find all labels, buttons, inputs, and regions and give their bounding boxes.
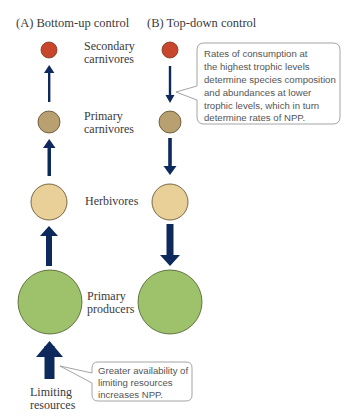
column-top-down [138,42,202,334]
callout-bottom-up: Greater availability of limiting resourc… [60,362,192,401]
panel-b-title: (B) Top-down control [147,16,257,30]
callout-bottom-line-3: increases NPP. [98,389,163,400]
column-bottom-up [18,42,82,379]
callout-top-line-5: trophic levels, which in turn [204,100,319,111]
label-herbivores: Herbivores [85,194,139,208]
node-primary-producers-b [138,270,202,334]
node-primary-carnivores-a [38,111,60,133]
panel-a-title: (A) Bottom-up control [16,16,130,30]
callout-top-line-6: determine rates of NPP. [204,112,305,123]
callout-top-line-1: Rates of consumption at [204,48,308,59]
node-primary-producers-a [18,270,82,334]
callout-top-line-2: the highest trophic levels [204,61,310,72]
node-herbivores-a [31,184,67,220]
callout-top-line-3: determine species composition [204,74,336,85]
label-primary-carnivores-1: Primary [84,109,123,123]
label-primary-carnivores-2: carnivores [84,122,134,136]
label-primary-producers-1: Primary [87,289,126,303]
arrow-down-icon [164,138,177,175]
arrow-up-icon [40,226,58,266]
label-secondary-carnivores-2: carnivores [84,52,134,66]
trophic-control-diagram: (A) Bottom-up control (B) Top-down contr… [0,0,353,416]
label-primary-producers-2: producers [87,302,135,316]
arrow-down-icon [160,224,180,266]
label-limiting-resources-1: Limiting [30,385,72,399]
label-secondary-carnivores-1: Secondary [84,39,135,53]
arrow-up-icon [43,139,56,176]
node-secondary-carnivores-b [162,42,178,58]
callout-bottom-line-1: Greater availability of [98,365,188,376]
node-herbivores-b [152,184,188,220]
label-limiting-resources-2: resources [30,398,76,412]
callout-top-line-4: and abundances at lower [204,87,312,98]
node-secondary-carnivores-a [41,42,57,58]
arrow-up-icon [36,341,63,379]
callout-top-down: Rates of consumption at the highest trop… [176,43,340,124]
arrow-up-icon [44,65,54,102]
node-primary-carnivores-b [159,111,181,133]
arrow-down-icon [166,66,175,103]
callout-bottom-line-2: limiting resources [98,377,173,388]
